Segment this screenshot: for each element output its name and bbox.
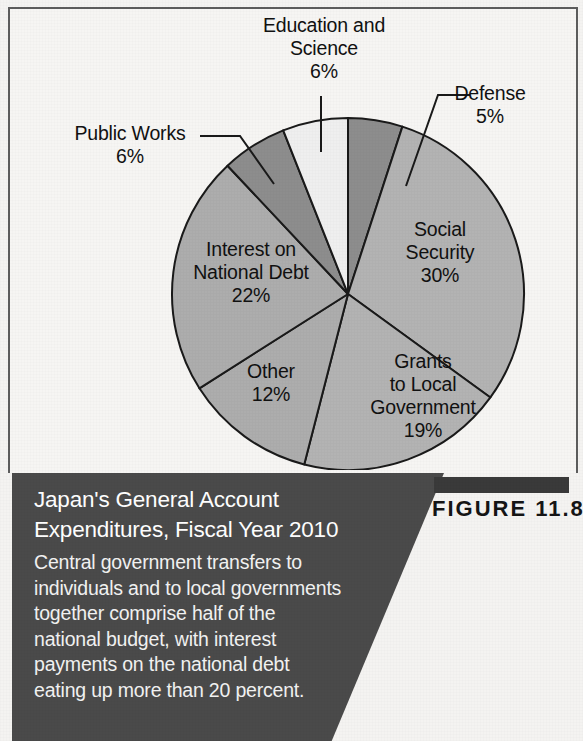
figure-number-bar <box>434 477 569 493</box>
caption-body: Central government transfers to individu… <box>34 550 400 703</box>
pie-label-grants-to-local-government: Grants to Local Government 19% <box>352 350 494 442</box>
caption-title: Japan's General Account Expenditures, Fi… <box>34 485 400 545</box>
pie-label-defense: Defense 5% <box>404 82 576 128</box>
pie-label-public-works: Public Works 6% <box>44 122 216 168</box>
figure-page: Education and Science 6% Defense 5% Publ… <box>0 0 583 741</box>
figure-number-label: FIGURE 11.8 <box>432 496 582 522</box>
pie-label-social-security: Social Security 30% <box>380 218 500 287</box>
pie-label-other: Other 12% <box>216 360 326 406</box>
caption-text-block: Japan's General Account Expenditures, Fi… <box>34 485 400 703</box>
pie-label-education-and-science: Education and Science 6% <box>236 14 412 83</box>
pie-label-interest-on-national-debt: Interest on National Debt 22% <box>160 238 342 307</box>
